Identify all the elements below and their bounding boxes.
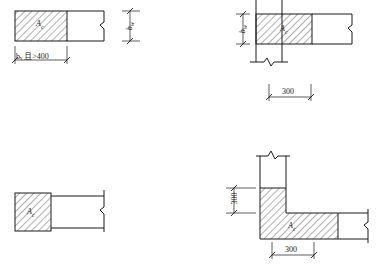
break-line-symbol bbox=[100, 11, 104, 41]
area-label-ac-top-right: Ac bbox=[280, 24, 288, 35]
figure-bottom-right bbox=[226, 151, 368, 259]
area-label-ac-bottom-left: Ac bbox=[27, 207, 35, 218]
area-label-ac-top-left: Ac bbox=[36, 19, 44, 30]
area-label-ac-bottom-right: Ac bbox=[288, 221, 296, 232]
wall-outline bbox=[338, 213, 368, 239]
wall-outline bbox=[51, 196, 104, 228]
wall-outline bbox=[67, 11, 104, 41]
width-dimension-label-top-right: 300 bbox=[282, 87, 294, 96]
break-line-symbol-top bbox=[256, 151, 290, 159]
horizontal-dimension-label-bottom-right: 300 bbox=[285, 245, 297, 254]
hatched-area-ac bbox=[260, 188, 338, 239]
wall-outline bbox=[312, 14, 352, 44]
height-dimension-label-top-left: bw bbox=[125, 16, 136, 36]
technical-drawing-canvas bbox=[0, 0, 381, 265]
figure-top-right bbox=[236, 0, 352, 101]
width-dimension-label-top-left: bᵥ 且>400 bbox=[16, 50, 49, 61]
column-outline bbox=[260, 156, 286, 188]
vertical-dimension-label-bottom-right: 300 bbox=[230, 187, 239, 211]
height-dimension-label-top-right: bw bbox=[238, 19, 249, 39]
break-line-symbol-right bbox=[348, 14, 352, 44]
break-line-symbol-right bbox=[364, 209, 368, 243]
